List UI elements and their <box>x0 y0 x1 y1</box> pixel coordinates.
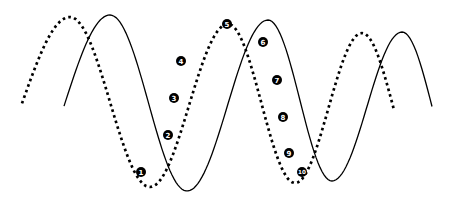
phase-marker-numeral: 6 <box>261 39 266 47</box>
phase-marker-numeral: 4 <box>179 58 184 66</box>
phase-marker-numeral: 7 <box>275 77 280 85</box>
phase-marker-8: 8 <box>278 112 288 122</box>
phase-marker-2: 2 <box>163 130 173 140</box>
phase-marker-numeral: 5 <box>225 21 230 29</box>
phase-marker-6: 6 <box>258 37 268 47</box>
phase-position-markers: 12345678910 <box>136 19 307 177</box>
wave-canvas: 12345678910 <box>0 0 455 209</box>
phase-marker-numeral: 2 <box>166 132 171 140</box>
phase-marker-3: 3 <box>169 93 179 103</box>
phase-marker-numeral: 1 <box>139 169 144 177</box>
solid-wave-curve <box>64 15 432 191</box>
dotted-wave-curve <box>22 17 394 187</box>
phase-marker-numeral: 10 <box>298 169 306 175</box>
phase-marker-10: 10 <box>297 167 307 177</box>
wave-phase-figure: 12345678910 <box>0 0 455 209</box>
phase-marker-5: 5 <box>222 19 232 29</box>
phase-marker-7: 7 <box>272 75 282 85</box>
phase-marker-1: 1 <box>136 167 146 177</box>
phase-marker-numeral: 3 <box>172 95 177 103</box>
phase-marker-numeral: 9 <box>287 150 292 158</box>
phase-marker-9: 9 <box>284 148 294 158</box>
phase-marker-numeral: 8 <box>281 114 286 122</box>
phase-marker-4: 4 <box>176 56 186 66</box>
